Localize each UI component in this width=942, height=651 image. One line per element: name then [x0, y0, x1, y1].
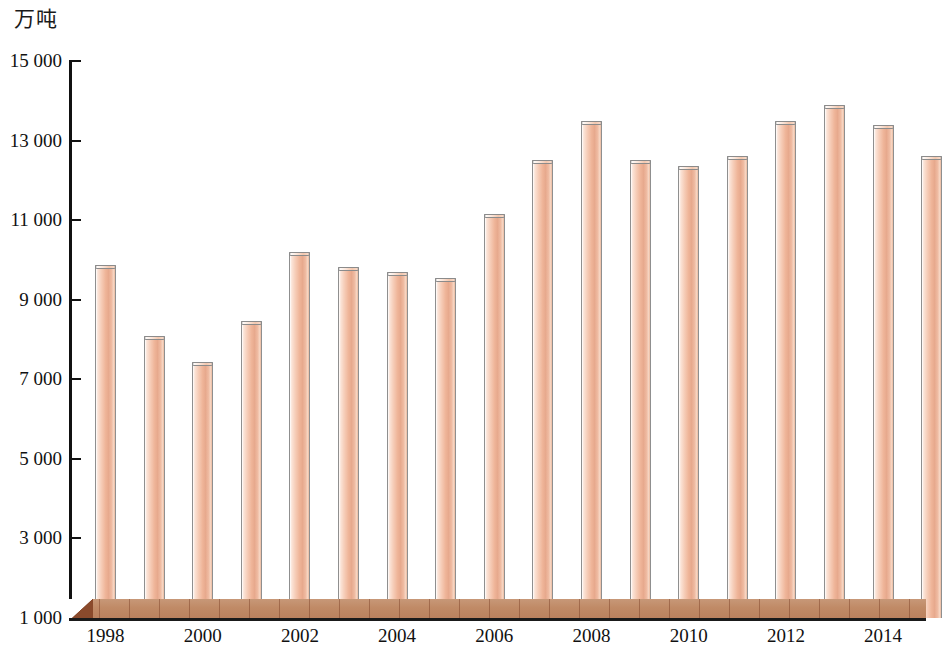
bar-cap [775, 121, 796, 125]
bar-cap [824, 105, 845, 109]
bar [581, 121, 602, 618]
bar-cap [338, 267, 359, 271]
bar [775, 121, 796, 618]
base-platform [69, 599, 926, 621]
bar [387, 272, 408, 618]
bar [144, 336, 165, 618]
bar-cap [581, 121, 602, 125]
bar [192, 362, 213, 618]
x-axis-tick-label: 1998 [71, 626, 141, 646]
x-axis-tick-label: 2006 [459, 626, 529, 646]
bar [921, 156, 942, 618]
bar-cap [192, 362, 213, 366]
bar-cap [921, 156, 942, 160]
bar-cap [484, 214, 505, 218]
x-axis-tick-label: 2008 [557, 626, 627, 646]
x-axis-tick-label: 2010 [654, 626, 724, 646]
bar [727, 156, 748, 618]
bar [241, 321, 262, 618]
x-axis-tick-label: 2000 [168, 626, 238, 646]
bar-cap [873, 125, 894, 129]
bar-cap [678, 166, 699, 170]
bar [873, 125, 894, 618]
bar [532, 160, 553, 618]
bar [289, 252, 310, 618]
bar-cap [630, 160, 651, 164]
x-axis-tick-label: 2004 [362, 626, 432, 646]
bar [435, 278, 456, 618]
bar-cap [387, 272, 408, 276]
x-axis-tick-label: 2012 [751, 626, 821, 646]
bar [338, 267, 359, 618]
bar-cap [435, 278, 456, 282]
x-axis-line [69, 618, 926, 621]
x-axis-tick-label: 2014 [848, 626, 918, 646]
x-axis-tick-label: 2002 [265, 626, 335, 646]
bar [95, 265, 116, 618]
bar [484, 214, 505, 618]
bar-cap [289, 252, 310, 256]
bar-cap [95, 265, 116, 269]
bar-cap [144, 336, 165, 340]
bar [678, 166, 699, 618]
bar-cap [532, 160, 553, 164]
bar [630, 160, 651, 618]
bar [824, 105, 845, 618]
bar-cap [727, 156, 748, 160]
bar-cap [241, 321, 262, 325]
